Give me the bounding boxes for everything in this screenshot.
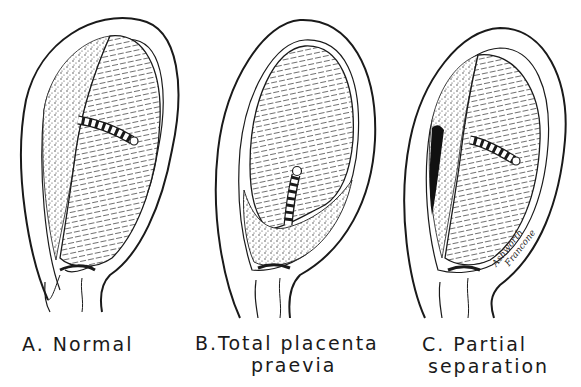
caption-b-total-placenta-praevia: B.Total placenta praevia xyxy=(195,332,379,376)
cervix xyxy=(439,267,480,318)
cervix xyxy=(45,266,95,312)
caption-a-line-1: A. Normal xyxy=(22,333,134,355)
caption-c-line-1: C. Partial xyxy=(422,333,549,355)
panel-b-placenta-praevia xyxy=(216,20,375,318)
placenta-illustration xyxy=(0,0,581,387)
caption-a-normal: A. Normal xyxy=(22,333,134,355)
cervix xyxy=(255,265,290,318)
caption-c-partial-separation: C. Partial separation xyxy=(422,333,549,377)
caption-c-line-2: separation xyxy=(422,355,549,377)
panel-c-partial-separation xyxy=(404,28,565,318)
caption-b-line-2: praevia xyxy=(195,354,379,376)
caption-b-line-1: B.Total placenta xyxy=(195,332,379,354)
panel-a-normal xyxy=(21,18,178,312)
